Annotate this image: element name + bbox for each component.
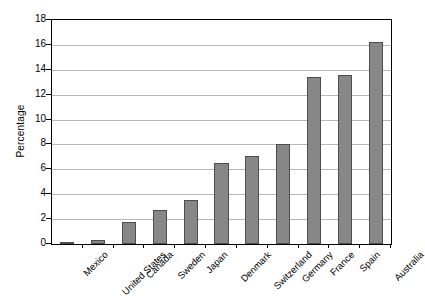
bar <box>245 156 259 244</box>
bar <box>338 75 352 244</box>
x-axis-category-label: Sweden <box>175 249 207 281</box>
y-axis-tick-label: 2 <box>24 213 46 223</box>
bar <box>184 200 198 244</box>
bar <box>369 42 383 244</box>
plot-area <box>51 19 392 245</box>
x-axis-tick <box>267 244 268 248</box>
bar <box>276 144 290 244</box>
x-axis-category-label: Spain <box>357 249 382 274</box>
y-axis-tick-label: 4 <box>24 188 46 198</box>
y-axis-tick-label: 14 <box>24 64 46 74</box>
x-axis-tick <box>205 244 206 248</box>
x-axis-category-label: Mexico <box>81 249 110 278</box>
y-axis-tick-labels: 024681012141618 <box>24 19 46 243</box>
x-axis-category-labels: MexicoUnited StatesCanadaSwedenJapanDenm… <box>0 249 406 303</box>
bar <box>122 222 136 244</box>
x-axis-tick <box>143 244 144 248</box>
x-axis-tick <box>236 244 237 248</box>
bar-series <box>52 20 391 244</box>
x-axis-tick <box>174 244 175 248</box>
bar <box>307 77 321 244</box>
x-axis-category-label: Australia <box>391 249 425 283</box>
y-axis-tick-label: 16 <box>24 39 46 49</box>
x-axis-tick <box>113 244 114 248</box>
x-axis-tick <box>298 244 299 248</box>
y-axis-tick-label: 0 <box>24 238 46 248</box>
x-axis-category-label: Denmark <box>238 249 273 284</box>
y-axis-tick-label: 10 <box>24 114 46 124</box>
x-axis-tick <box>390 244 391 248</box>
x-axis-tick <box>82 244 83 248</box>
bar <box>214 163 228 244</box>
x-axis-tick <box>359 244 360 248</box>
x-axis-tick <box>328 244 329 248</box>
bar <box>153 210 167 244</box>
y-axis-tick-label: 12 <box>24 89 46 99</box>
y-axis-tick-label: 6 <box>24 163 46 173</box>
y-axis-tick-label: 8 <box>24 138 46 148</box>
y-axis-tick-label: 18 <box>24 14 46 24</box>
x-axis-category-label: Japan <box>203 249 229 275</box>
